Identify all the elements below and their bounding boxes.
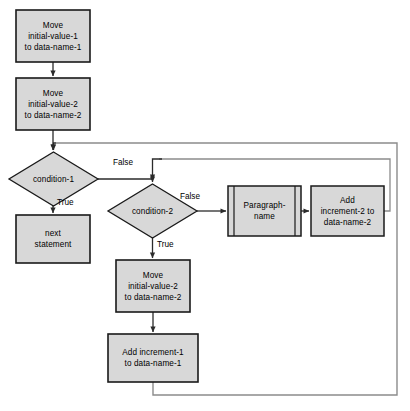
flowchart-canvas: Move initial-value-1 to data-name-1 Move… (0, 0, 410, 411)
node-condition-1[interactable] (9, 152, 98, 206)
node-paragraph-name[interactable] (228, 186, 301, 236)
node-add-increment-2[interactable] (311, 186, 384, 236)
edge-label-condition-2-false: False (180, 192, 200, 202)
edge-label-condition-1-false: False (113, 158, 133, 168)
edge-label-condition-2-true: True (157, 240, 174, 250)
node-next-statement[interactable] (16, 215, 90, 263)
node-add-increment-1[interactable] (108, 334, 198, 382)
connector-add-increment-1-feedback-to-condition-1 (54, 143, 398, 395)
node-move-2[interactable] (16, 78, 90, 130)
connector-condition-1-false-to-condition-2 (98, 179, 153, 182)
edge-label-condition-1-true: True (57, 198, 74, 208)
node-move-2b[interactable] (116, 260, 190, 312)
node-move-1[interactable] (16, 10, 90, 62)
